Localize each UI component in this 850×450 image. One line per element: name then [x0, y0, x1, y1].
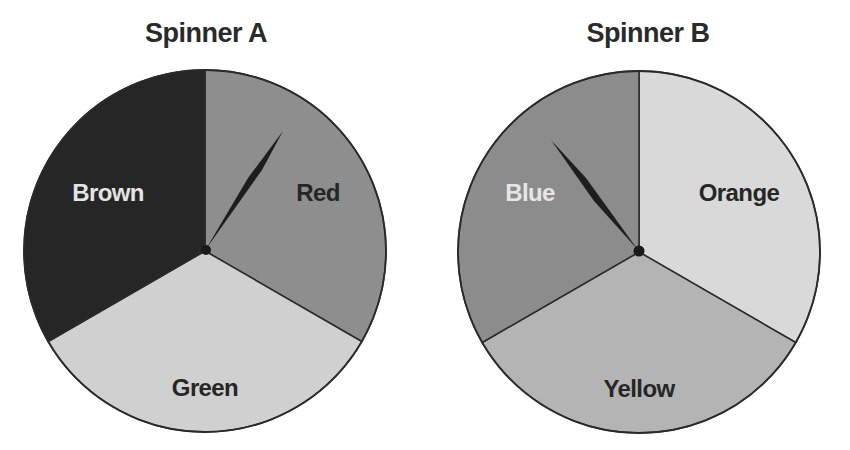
- spinner-b-label-blue: Blue: [505, 179, 555, 206]
- spinner-a-label-green: Green: [172, 374, 238, 401]
- spinner-b-label-orange: Orange: [699, 179, 780, 206]
- spinner-a-label-red: Red: [296, 179, 340, 206]
- spinner-a-label-brown: Brown: [72, 179, 144, 206]
- spinner-b: Orange Yellow Blue: [458, 71, 820, 433]
- spinners-diagram: Red Green Brown Orange Yellow Blue: [0, 0, 850, 450]
- spinner-a-pivot-icon: [201, 245, 211, 255]
- spinner-a: Red Green Brown: [24, 70, 386, 432]
- spinner-b-pivot-icon: [634, 246, 645, 257]
- spinner-b-label-yellow: Yellow: [603, 375, 675, 402]
